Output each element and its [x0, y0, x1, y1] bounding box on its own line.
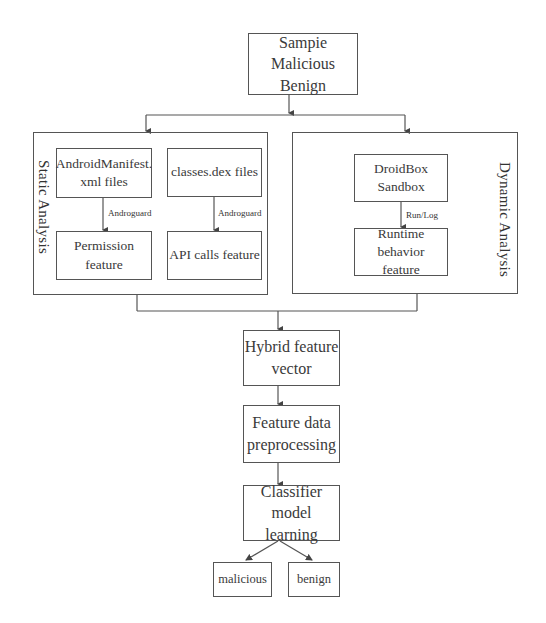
api-calls-label: API calls feature — [169, 246, 260, 264]
dynamic-analysis-label: Dynamic Analysis — [496, 162, 513, 277]
hybrid-feature-vector-box: Hybrid feature vector — [243, 330, 340, 386]
source-box: Sampie Malicious Benign — [248, 33, 358, 95]
preprocessing-line-1: Feature data — [247, 412, 336, 434]
droidbox-line-2: Sandbox — [374, 178, 428, 196]
manifest-box: AndroidManifest. xml files — [56, 148, 152, 198]
manifest-line-1: AndroidManifest. — [56, 155, 152, 173]
permission-line-1: Permission — [74, 237, 134, 255]
source-line-2: Malicious — [271, 53, 335, 75]
classifier-line-1: Classifier model — [244, 481, 339, 524]
static-analysis-label: Static Analysis — [35, 160, 52, 254]
permission-line-2: feature — [74, 256, 134, 274]
runtime-behavior-box: Runtime behavior feature — [354, 228, 448, 276]
classifier-line-2: learning — [244, 524, 339, 546]
droidbox-line-1: DroidBox — [374, 160, 428, 178]
output-malicious-box: malicious — [213, 562, 272, 597]
output-benign-box: benign — [288, 562, 340, 597]
api-calls-feature-box: API calls feature — [167, 231, 262, 280]
androguard-label-api: Androguard — [218, 208, 262, 218]
classifier-learning-box: Classifier model learning — [243, 485, 340, 541]
runtime-line-1: Runtime behavior — [355, 225, 447, 261]
source-line-3: Benign — [271, 75, 335, 97]
manifest-line-2: xml files — [56, 173, 152, 191]
run-log-label: Run/Log — [406, 210, 438, 220]
androguard-label-permission: Androguard — [108, 208, 152, 218]
runtime-line-2: feature — [355, 261, 447, 279]
source-line-1: Sampie — [271, 32, 335, 54]
output-malicious-label: malicious — [218, 571, 267, 588]
classes-dex-box: classes.dex files — [167, 148, 262, 197]
permission-feature-box: Permission feature — [56, 231, 152, 280]
feature-preprocessing-box: Feature data preprocessing — [243, 405, 340, 463]
preprocessing-line-2: preprocessing — [247, 434, 336, 456]
hybrid-line-1: Hybrid feature — [245, 336, 339, 358]
classes-dex-label: classes.dex files — [171, 163, 258, 181]
hybrid-line-2: vector — [245, 358, 339, 380]
droidbox-sandbox-box: DroidBox Sandbox — [354, 154, 448, 202]
output-benign-label: benign — [297, 571, 331, 588]
